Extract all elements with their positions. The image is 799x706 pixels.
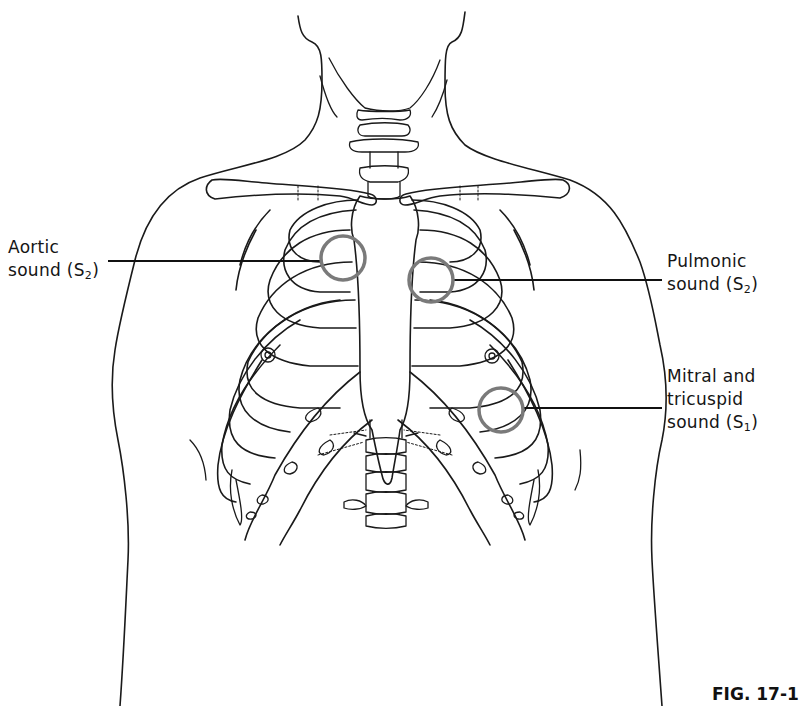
pulmonic-sound-label: Pulmonic sound (S2) [667,250,758,296]
ribs-left-side [398,200,552,545]
sternum [352,196,419,484]
aortic-label-line2: sound (S2) [8,259,99,282]
leader-lines [108,261,662,408]
aortic-label-line1: Aortic [8,236,99,259]
mitral-label-line3: sound (S1) [667,411,758,434]
thoracic-spine [344,420,428,528]
mitral-tricuspid-area-ring [479,388,523,432]
cervical-spine [350,110,419,199]
figure-caption: FIG. 17-1 [712,684,799,704]
aortic-area-ring [321,236,365,280]
aortic-sound-label: Aortic sound (S2) [8,236,99,282]
ribs-right-side [218,200,372,545]
pulmonic-label-line2: sound (S2) [667,273,758,296]
body-outline [112,12,666,706]
pulmonic-label-line1: Pulmonic [667,250,758,273]
pulmonic-area-ring [409,258,453,302]
nipples [261,348,499,363]
mitral-label-line1: Mitral and [667,365,758,388]
mitral-tricuspid-sound-label: Mitral and tricuspid sound (S1) [667,365,758,434]
mitral-label-line2: tricuspid [667,388,758,411]
clavicles [206,179,569,205]
